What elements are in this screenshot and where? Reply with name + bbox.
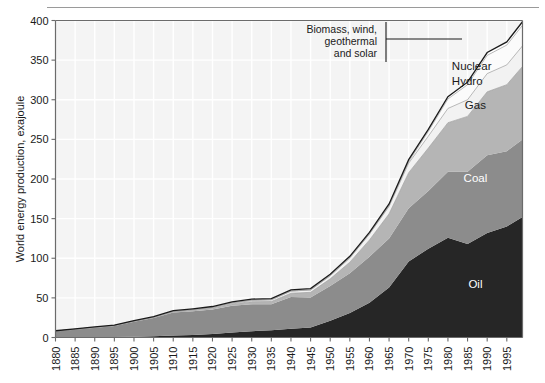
x-tick-label-1980: 1980 bbox=[442, 347, 454, 371]
x-tick-label-1950: 1950 bbox=[324, 347, 336, 371]
annotation-line-1: Biomass, wind, bbox=[306, 23, 377, 35]
x-tick-label-1985: 1985 bbox=[462, 347, 474, 371]
annotation-line-3: and solar bbox=[334, 47, 378, 59]
x-tick-label-1885: 1885 bbox=[69, 347, 81, 371]
y-tick-label-50: 50 bbox=[36, 292, 48, 304]
x-tick-label-1915: 1915 bbox=[187, 347, 199, 371]
y-tick-label-0: 0 bbox=[42, 332, 48, 344]
x-tick-label-1880: 1880 bbox=[50, 347, 62, 371]
x-tick-label-1905: 1905 bbox=[148, 347, 160, 371]
x-tick-label-1935: 1935 bbox=[265, 347, 277, 371]
x-tick-label-1960: 1960 bbox=[363, 347, 375, 371]
band-label-gas: Gas bbox=[465, 99, 486, 111]
y-tick-label-150: 150 bbox=[30, 213, 48, 225]
x-tick-label-1930: 1930 bbox=[246, 347, 258, 371]
y-tick-label-350: 350 bbox=[30, 54, 48, 66]
band-label-nuclear: Nuclear bbox=[452, 60, 492, 72]
x-tick-label-1925: 1925 bbox=[226, 347, 238, 371]
y-tick-label-400: 400 bbox=[30, 15, 48, 27]
x-tick-label-1955: 1955 bbox=[344, 347, 356, 371]
x-tick-label-1910: 1910 bbox=[167, 347, 179, 371]
band-label-coal: Coal bbox=[464, 172, 488, 184]
y-axis-title: World energy production, exajoule bbox=[14, 96, 26, 263]
x-tick-label-1970: 1970 bbox=[403, 347, 415, 371]
y-tick-label-100: 100 bbox=[30, 252, 48, 264]
chart-svg: 0501001502002503003504001880188518901895… bbox=[0, 0, 545, 383]
x-tick-label-1920: 1920 bbox=[206, 347, 218, 371]
x-tick-label-1975: 1975 bbox=[422, 347, 434, 371]
y-tick-label-250: 250 bbox=[30, 133, 48, 145]
annotation-line-2: geothermal bbox=[324, 35, 377, 47]
y-tick-label-300: 300 bbox=[30, 94, 48, 106]
x-tick-label-1900: 1900 bbox=[128, 347, 140, 371]
x-tick-label-1990: 1990 bbox=[481, 347, 493, 371]
energy-production-area-chart: 0501001502002503003504001880188518901895… bbox=[0, 0, 545, 383]
y-tick-label-200: 200 bbox=[30, 173, 48, 185]
band-label-oil: Oil bbox=[468, 278, 482, 290]
x-tick-label-1945: 1945 bbox=[305, 347, 317, 371]
x-tick-label-1895: 1895 bbox=[108, 347, 120, 371]
x-tick-label-1940: 1940 bbox=[285, 347, 297, 371]
x-tick-label-1995: 1995 bbox=[501, 346, 513, 370]
x-tick-label-1890: 1890 bbox=[89, 347, 101, 371]
x-tick-label-1965: 1965 bbox=[383, 347, 395, 371]
band-label-hydro: Hydro bbox=[452, 75, 483, 87]
